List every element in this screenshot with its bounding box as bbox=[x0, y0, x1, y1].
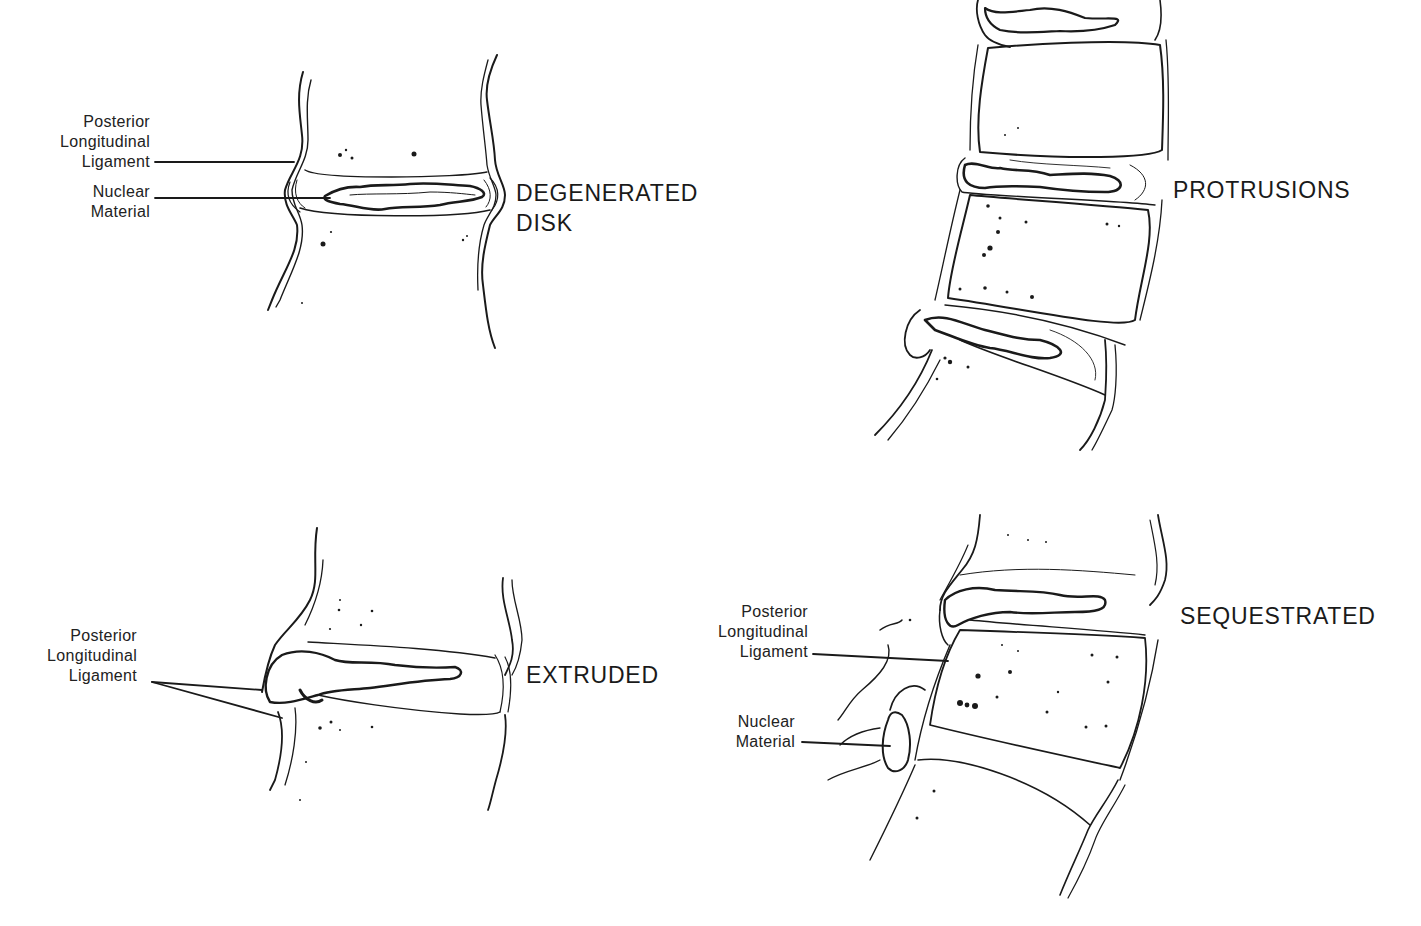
callout-line: Posterior bbox=[20, 112, 150, 132]
callout-line: Ligament bbox=[10, 666, 137, 686]
illustration bbox=[0, 0, 1421, 926]
sequestrated-drawing bbox=[802, 515, 1167, 898]
title-line: DEGENERATED bbox=[516, 178, 698, 208]
sequestrated-nuclear-callout: Nuclear Material bbox=[680, 712, 795, 752]
title-line: DISK bbox=[516, 208, 698, 238]
protrusions-title: PROTRUSIONS bbox=[1173, 175, 1350, 205]
protrusions-drawing bbox=[875, 0, 1169, 450]
extruded-drawing bbox=[152, 528, 522, 810]
degenerated-nuclear-callout: Nuclear Material bbox=[20, 182, 150, 222]
callout-line: Material bbox=[20, 202, 150, 222]
callout-line: Posterior bbox=[10, 626, 137, 646]
degenerated-disk-drawing bbox=[155, 55, 505, 348]
sequestrated-ligament-callout: Posterior Longitudinal Ligament bbox=[680, 602, 808, 662]
callout-line: Ligament bbox=[20, 152, 150, 172]
callout-line: Posterior bbox=[680, 602, 808, 622]
extruded-ligament-callout: Posterior Longitudinal Ligament bbox=[10, 626, 137, 686]
extruded-title: EXTRUDED bbox=[526, 660, 659, 690]
degenerated-ligament-callout: Posterior Longitudinal Ligament bbox=[20, 112, 150, 172]
callout-line: Nuclear bbox=[680, 712, 795, 732]
sequestrated-title: SEQUESTRATED bbox=[1180, 601, 1376, 631]
degenerated-disk-title: DEGENERATED DISK bbox=[516, 178, 698, 238]
title-line: EXTRUDED bbox=[526, 660, 659, 690]
callout-line: Longitudinal bbox=[680, 622, 808, 642]
callout-line: Ligament bbox=[680, 642, 808, 662]
callout-line: Material bbox=[680, 732, 795, 752]
callout-line: Longitudinal bbox=[20, 132, 150, 152]
title-line: SEQUESTRATED bbox=[1180, 601, 1376, 631]
callout-line: Nuclear bbox=[20, 182, 150, 202]
callout-line: Longitudinal bbox=[10, 646, 137, 666]
title-line: PROTRUSIONS bbox=[1173, 175, 1350, 205]
